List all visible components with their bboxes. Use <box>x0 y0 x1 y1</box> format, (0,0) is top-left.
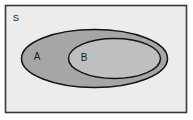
venn-diagram-svg: S A B <box>0 0 193 120</box>
universal-set-label: S <box>13 12 19 23</box>
venn-diagram-container: S A B <box>0 0 193 120</box>
set-a-label: A <box>34 51 41 62</box>
set-b-label: B <box>81 52 88 63</box>
